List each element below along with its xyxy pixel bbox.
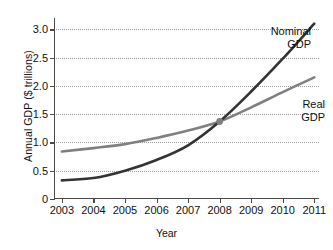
x-axis-tick-label: 2004 bbox=[81, 205, 105, 216]
x-axis-tick-mark bbox=[125, 198, 126, 203]
y-axis-tick-mark bbox=[50, 171, 55, 172]
y-axis-tick-mark bbox=[50, 142, 55, 143]
series-label-real-gdp-line2: GDP bbox=[301, 111, 325, 124]
x-axis-tick-mark bbox=[157, 198, 158, 203]
series-label-nominal-gdp-line1: Nominal bbox=[271, 25, 311, 38]
y-axis-tick-label: 0.5 bbox=[33, 165, 48, 176]
x-axis-tick-label: 2005 bbox=[113, 205, 137, 216]
x-axis-tick-label: 2011 bbox=[302, 205, 326, 216]
x-axis-tick-mark bbox=[93, 198, 94, 203]
y-axis-tick-mark bbox=[50, 86, 55, 87]
series-line-real-gdp bbox=[62, 77, 314, 151]
y-axis-tick-label: 2.5 bbox=[33, 52, 48, 63]
x-axis-title: Year bbox=[0, 227, 333, 239]
series-label-nominal-gdp-line2: GDP bbox=[271, 38, 311, 51]
y-axis-tick-mark bbox=[50, 114, 55, 115]
y-axis-tick-mark bbox=[50, 29, 55, 30]
x-axis-tick-mark bbox=[283, 198, 284, 203]
y-axis-tick-mark bbox=[50, 199, 55, 200]
x-axis-tick-mark bbox=[220, 198, 221, 203]
series-label-real-gdp: Real GDP bbox=[301, 98, 325, 124]
y-axis-tick-label: 0 bbox=[42, 194, 48, 205]
x-axis-tick-label: 2006 bbox=[144, 205, 168, 216]
y-axis-tick-label: 3.0 bbox=[33, 24, 48, 35]
gdp-line-chart: Annual GDP ($ trillions) 00.51.01.52.02.… bbox=[0, 0, 333, 250]
y-axis-tick-label: 2.0 bbox=[33, 80, 48, 91]
x-axis-tick-mark bbox=[251, 198, 252, 203]
x-axis-tick-mark bbox=[188, 198, 189, 203]
y-axis-title: Annual GDP ($ trillions) bbox=[22, 26, 34, 186]
y-axis-tick-label: 1.0 bbox=[33, 137, 48, 148]
series-label-real-gdp-line1: Real bbox=[301, 98, 325, 111]
x-axis-tick-mark bbox=[62, 198, 63, 203]
series-label-nominal-gdp: Nominal GDP bbox=[271, 25, 311, 51]
x-axis-tick-label: 2007 bbox=[176, 205, 200, 216]
y-axis-tick-mark bbox=[50, 58, 55, 59]
intersection-marker bbox=[216, 118, 223, 125]
x-axis-tick-label: 2010 bbox=[270, 205, 294, 216]
x-axis-tick-label: 2003 bbox=[50, 205, 74, 216]
x-axis-tick-label: 2009 bbox=[239, 205, 263, 216]
x-axis-tick-label: 2008 bbox=[207, 205, 231, 216]
x-axis-tick-mark bbox=[314, 198, 315, 203]
y-axis-tick-label: 1.5 bbox=[33, 109, 48, 120]
